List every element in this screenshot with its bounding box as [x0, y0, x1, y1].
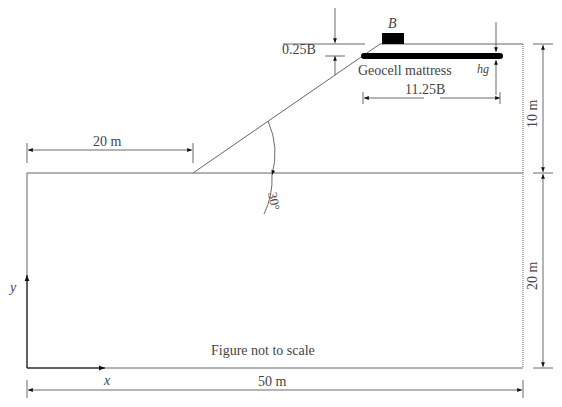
mattress-width-label: 11.25B — [405, 82, 445, 97]
total-width-label: 50 m — [258, 374, 287, 389]
footing-block — [382, 33, 404, 44]
slope-face — [193, 44, 380, 173]
y-axis-label: y — [8, 280, 17, 295]
slope-angle-arc — [268, 121, 275, 175]
foundation-depth-label: 20 m — [525, 262, 540, 291]
slope-angle-label: 30° — [265, 191, 283, 212]
x-axis-label: x — [103, 373, 111, 388]
coordinate-axes — [27, 275, 105, 368]
crest-offset-label: 20 m — [93, 134, 122, 149]
embedment-label: 0.25B — [282, 42, 316, 57]
mattress-height-label: hg — [477, 62, 489, 76]
mattress-label: Geocell mattress — [358, 63, 452, 78]
slope-height-label: 10 m — [525, 100, 540, 129]
slope-geometry-diagram: B Geocell mattress hg 0.25B 11.25B 20 m … — [0, 0, 562, 407]
scale-caption: Figure not to scale — [211, 343, 315, 358]
footing-label: B — [388, 16, 397, 31]
